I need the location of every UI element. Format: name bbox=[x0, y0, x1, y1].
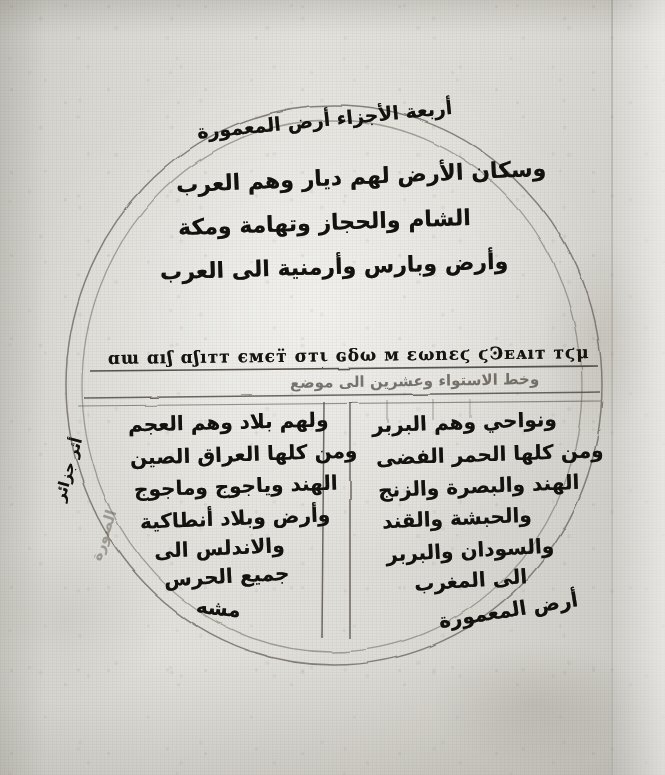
south-west-line-5: والاندلس الى bbox=[154, 535, 285, 561]
south-west-line-6: جميع الحرس bbox=[164, 563, 290, 590]
south-west-line-1: ولهم بلاد وهم العجم bbox=[128, 409, 329, 434]
south-east-line-1: ونواحي وهم البربر bbox=[372, 409, 557, 435]
label-bottom-left: مشه bbox=[195, 596, 242, 621]
manuscript-page: أربعة الأجزاء أرض المعمورة وسكان الأرض ل… bbox=[0, 0, 665, 775]
equator-line-mid bbox=[84, 392, 600, 398]
south-east-line-4: والحبشة والقند bbox=[382, 505, 532, 532]
equator-line-lower bbox=[78, 401, 601, 406]
south-west-line-2: ومن كلها العراق الصين bbox=[130, 440, 358, 467]
south-west-line-3: الهند وياجوج وماجوج bbox=[134, 472, 338, 499]
equator-under-line: وخط الاستواء وعشرين الى موضع bbox=[290, 372, 539, 391]
